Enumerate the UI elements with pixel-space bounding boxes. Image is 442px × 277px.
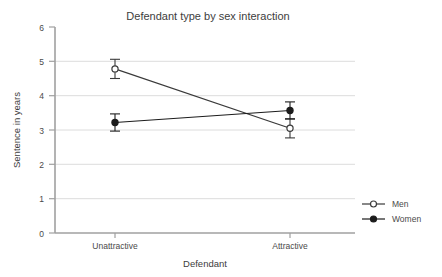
y-tick-label-4: 4: [39, 91, 44, 101]
y-tick-label-5: 5: [39, 57, 44, 67]
legend-marker-open-circle-icon: [371, 201, 377, 207]
x-category-label-attractive: Attractive: [272, 241, 308, 251]
legend-label-men: Men: [392, 199, 409, 209]
y-tick-label-0: 0: [39, 229, 44, 239]
data-point-men-attractive: [287, 125, 293, 131]
y-tick-label-3: 3: [39, 126, 44, 136]
interaction-line-chart: Defendant type by sex interaction 6 5 4 …: [0, 0, 442, 277]
y-axis-title: Sentence in years: [11, 92, 22, 168]
data-point-women-attractive: [287, 107, 293, 113]
legend-label-women: Women: [392, 214, 421, 224]
y-tick-label-2: 2: [39, 160, 44, 170]
data-point-women-unattractive: [112, 119, 118, 125]
x-axis-title: Defendant: [183, 258, 227, 269]
legend-marker-filled-circle-icon: [371, 216, 377, 222]
data-point-men-unattractive: [112, 66, 118, 72]
page-title: Defendant type by sex interaction: [126, 10, 289, 22]
chart-background: [0, 0, 442, 277]
x-category-label-unattractive: Unattractive: [92, 241, 138, 251]
chart-figure: Defendant type by sex interaction 6 5 4 …: [0, 0, 442, 277]
y-tick-label-6: 6: [39, 23, 44, 33]
y-tick-label-1: 1: [39, 194, 44, 204]
